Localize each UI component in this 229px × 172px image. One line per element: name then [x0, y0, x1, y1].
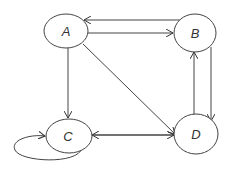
- node-c-label: C: [63, 129, 73, 144]
- graph-canvas: A B C D: [0, 0, 229, 172]
- node-a-label: A: [61, 24, 71, 39]
- node-b-label: B: [191, 26, 200, 41]
- edge-a-to-d: [83, 44, 175, 134]
- node-b[interactable]: B: [174, 14, 216, 52]
- node-c[interactable]: C: [46, 119, 92, 153]
- node-d[interactable]: D: [174, 114, 218, 154]
- node-a[interactable]: A: [44, 14, 88, 48]
- node-d-label: D: [191, 127, 200, 142]
